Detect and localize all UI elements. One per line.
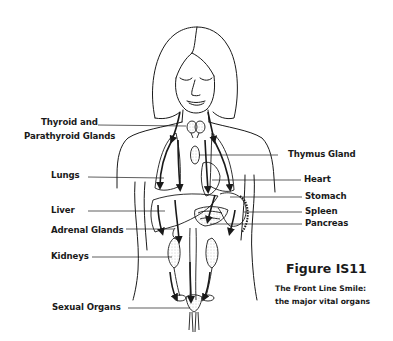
figure-title: Figure IS11 bbox=[286, 261, 367, 276]
label-stomach: Stomach bbox=[305, 191, 346, 201]
label-lungs: Lungs bbox=[51, 170, 79, 180]
label-kidneys: Kidneys bbox=[51, 251, 89, 261]
leader-lungs bbox=[88, 177, 164, 178]
figure-caption-line2: the major vital organs bbox=[275, 296, 370, 308]
spleen-shape bbox=[240, 196, 248, 232]
right-shoulder bbox=[209, 122, 275, 192]
label-thymus-gland: Thymus Gland bbox=[288, 149, 356, 159]
nose bbox=[192, 80, 200, 96]
thyroid-gland-shape bbox=[187, 121, 205, 138]
label-pancreas: Pancreas bbox=[305, 218, 348, 228]
sexual-organs-shape bbox=[174, 295, 214, 332]
figure-caption-line1: The Front Line Smile: bbox=[275, 283, 366, 295]
label-sexual-organs: Sexual Organs bbox=[52, 302, 121, 312]
label-heart: Heart bbox=[304, 174, 331, 184]
thymus-shape bbox=[191, 146, 200, 164]
label-spleen: Spleen bbox=[305, 206, 337, 216]
label-thyroid-line1: Thyroid and bbox=[41, 117, 98, 127]
label-liver: Liver bbox=[51, 205, 75, 215]
right-kidney bbox=[206, 238, 218, 268]
left-adrenal bbox=[173, 228, 176, 238]
mouth bbox=[187, 101, 205, 103]
right-lung bbox=[210, 133, 234, 191]
left-kidney bbox=[168, 238, 180, 268]
label-thyroid-line2: Parathyroid Glands bbox=[24, 131, 115, 141]
hair-part bbox=[176, 27, 197, 78]
right-eye bbox=[200, 78, 212, 80]
left-lung bbox=[155, 133, 180, 190]
label-adrenal-glands: Adrenal Glands bbox=[51, 225, 124, 235]
leader-thyroid bbox=[98, 125, 186, 126]
left-eye bbox=[180, 78, 192, 80]
